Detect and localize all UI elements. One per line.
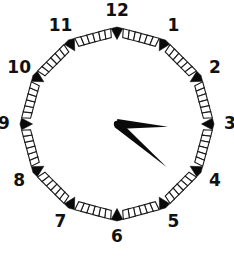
hour-marker-3 — [202, 118, 215, 130]
hour-number-4: 4 — [209, 170, 221, 190]
dial-ring-segment — [22, 130, 32, 137]
clock-hands — [114, 119, 168, 167]
hour-number-10: 10 — [7, 57, 31, 77]
hour-number-6: 6 — [111, 226, 123, 246]
hour-marker-6 — [111, 209, 123, 222]
center-pivot — [114, 121, 120, 127]
analog-clock-widget: 121234567891011 — [0, 0, 234, 271]
dial-ring-segment — [105, 29, 112, 39]
hour-number-11: 11 — [49, 15, 73, 35]
hour-number-7: 7 — [55, 211, 67, 231]
dial-ring-segment — [123, 209, 130, 219]
minute-hand — [117, 119, 168, 129]
hour-number-8: 8 — [13, 170, 25, 190]
hour-marker-9 — [20, 118, 33, 130]
hour-number-5: 5 — [168, 211, 180, 231]
clock-face-svg: 121234567891011 — [0, 0, 234, 271]
hour-number-3: 3 — [224, 113, 234, 133]
hour-number-1: 1 — [168, 15, 180, 35]
hour-marker-12 — [111, 27, 123, 40]
hour-number-2: 2 — [209, 57, 221, 77]
hour-number-9: 9 — [0, 113, 10, 133]
dial-ring-segment — [202, 112, 212, 119]
hour-number-12: 12 — [105, 0, 129, 20]
